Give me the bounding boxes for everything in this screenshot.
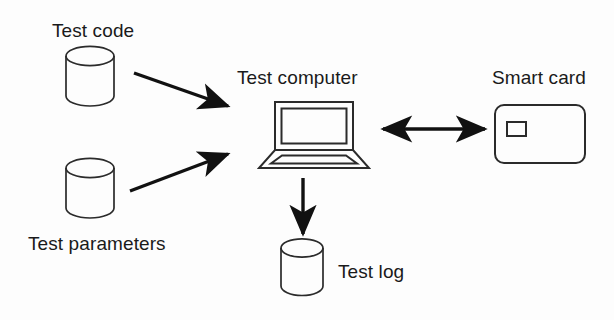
card-chip-icon	[507, 122, 526, 136]
cylinder-database-icon	[66, 46, 114, 106]
cylinder-database-icon	[66, 158, 114, 218]
edge-code-to-computer	[134, 73, 228, 106]
node-label-smart-card: Smart card	[492, 68, 586, 87]
node-test-parameters[interactable]	[64, 158, 120, 220]
node-label-test-code: Test code	[52, 21, 134, 40]
node-label-test-log: Test log	[338, 262, 404, 281]
cylinder-database-icon	[281, 239, 323, 296]
laptop-icon	[259, 102, 369, 168]
node-label-test-computer: Test computer	[237, 68, 358, 87]
edge-parameters-to-computer	[130, 154, 228, 191]
smart-card-icon	[495, 105, 585, 163]
node-test-code[interactable]	[64, 46, 120, 108]
node-test-log[interactable]	[279, 238, 329, 300]
node-label-test-parameters: Test parameters	[28, 234, 166, 253]
node-smart-card[interactable]	[493, 103, 589, 167]
diagram-canvas: Test code Test parameters Test computer	[0, 0, 614, 320]
node-test-computer[interactable]	[256, 98, 372, 176]
